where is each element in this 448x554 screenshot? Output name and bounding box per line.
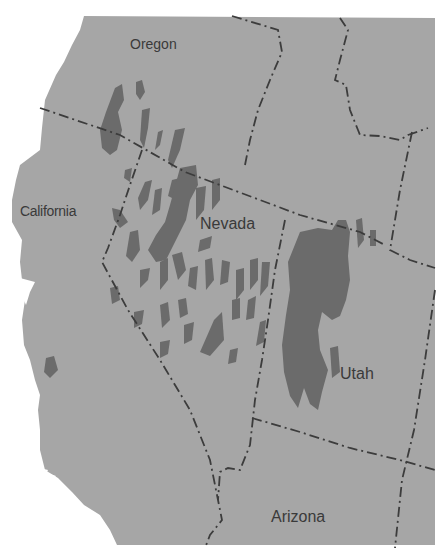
label-arizona: Arizona bbox=[271, 508, 325, 526]
map-canvas bbox=[0, 0, 448, 554]
label-utah: Utah bbox=[340, 365, 374, 383]
label-california: California bbox=[20, 203, 76, 219]
label-nevada: Nevada bbox=[200, 215, 255, 233]
label-oregon: Oregon bbox=[130, 36, 177, 52]
